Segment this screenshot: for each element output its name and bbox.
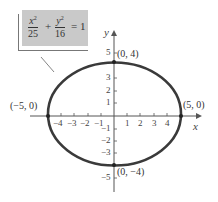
point-right bbox=[179, 114, 183, 118]
point-bottom bbox=[112, 163, 116, 167]
denominator-16: 16 bbox=[55, 28, 65, 40]
x-tick-label: 1 bbox=[125, 118, 130, 128]
y-tick-label: 5 bbox=[106, 47, 111, 57]
fraction-x: x2 25 bbox=[28, 12, 38, 40]
y-tick-label: −5 bbox=[101, 172, 111, 182]
equation-box: x2 25 + y2 16 = 1 bbox=[22, 10, 88, 46]
point-left bbox=[46, 114, 50, 118]
y-axis-label: y bbox=[104, 26, 109, 38]
x-axis-arrow-icon bbox=[196, 113, 202, 119]
point-label-bottom: (0, −4) bbox=[117, 166, 144, 177]
y-tick-label: −1 bbox=[101, 123, 111, 133]
point-label-top: (0, 4) bbox=[117, 48, 139, 59]
x-tick-label: 2 bbox=[138, 118, 143, 128]
point-label-left: (−5, 0) bbox=[10, 100, 37, 111]
y-axis-arrow-icon bbox=[111, 30, 117, 36]
exponent: 2 bbox=[61, 15, 64, 21]
x-tick-label: 4 bbox=[165, 118, 170, 128]
x-tick-label: −4 bbox=[53, 118, 63, 128]
denominator-25: 25 bbox=[28, 28, 38, 40]
y-tick-label: 1 bbox=[106, 97, 111, 107]
fraction-y: y2 16 bbox=[55, 12, 65, 40]
x-tick-label: −3 bbox=[67, 118, 77, 128]
x-tick-label: 3 bbox=[152, 118, 157, 128]
y-tick-label: −2 bbox=[101, 135, 111, 145]
y-tick-label: −3 bbox=[101, 147, 111, 157]
exponent: 2 bbox=[34, 15, 37, 21]
x-axis-label: x bbox=[193, 120, 198, 132]
y-tick-label: 2 bbox=[106, 85, 111, 95]
point-label-right: (5, 0) bbox=[183, 99, 205, 110]
leader-line bbox=[41, 57, 54, 72]
y-tick-label: 3 bbox=[106, 72, 111, 82]
plus-sign: + bbox=[45, 20, 51, 32]
point-top bbox=[112, 60, 116, 64]
equals-one: = 1 bbox=[71, 20, 85, 32]
x-tick-label: −2 bbox=[80, 118, 90, 128]
